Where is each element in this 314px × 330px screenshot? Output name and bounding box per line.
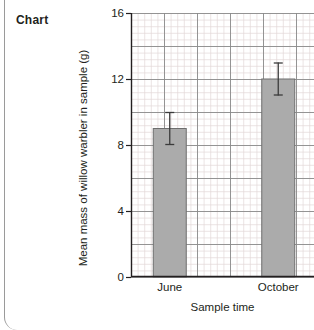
bar-chart-svg bbox=[131, 13, 314, 277]
plot-area bbox=[131, 13, 314, 277]
x-tick-label: October bbox=[258, 281, 299, 293]
x-tick-label: June bbox=[157, 281, 182, 293]
y-tick-label: 4 bbox=[100, 205, 124, 217]
y-tick-label: 16 bbox=[100, 7, 124, 19]
y-axis-title: Mean mass of willow warbler in sample (g… bbox=[77, 33, 89, 283]
bar-october bbox=[262, 79, 295, 277]
x-axis-tick-labels: JuneOctober bbox=[131, 281, 314, 299]
y-axis-tick-labels: 0481216 bbox=[100, 13, 124, 277]
y-tick-label: 12 bbox=[100, 73, 124, 85]
chart-caption-label: Chart bbox=[16, 13, 48, 27]
y-tick-label: 8 bbox=[100, 139, 124, 151]
y-tick-label: 0 bbox=[100, 271, 124, 283]
page-left-rule bbox=[4, 0, 28, 330]
bar-june bbox=[153, 129, 186, 278]
x-axis-title: Sample time bbox=[131, 301, 314, 313]
